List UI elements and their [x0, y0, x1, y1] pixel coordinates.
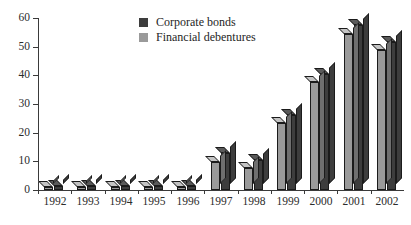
bar-2002-corporate-bonds-front-face — [387, 42, 396, 190]
legend: Corporate bonds Financial debentures — [139, 15, 256, 45]
bar-1994-financial-debentures-top-face — [105, 181, 120, 187]
x-axis-line — [38, 190, 404, 191]
bar-1996-financial-debentures-top-face — [171, 181, 186, 187]
bar-1996-financial-debentures-side-face — [186, 175, 192, 184]
y-tick-60 — [33, 18, 38, 19]
y-tick-50 — [33, 47, 38, 48]
legend-item-corporate-bonds: Corporate bonds — [139, 15, 256, 29]
bar-chart: 0102030405060 19921993199419951996199719… — [0, 0, 411, 225]
y-tick-20 — [33, 133, 38, 134]
bar-2002-corporate-bonds-top-face — [381, 36, 396, 42]
bar-1997-financial-debentures-front-face — [211, 162, 220, 190]
bar-1992-corporate-bonds-side-face — [63, 174, 69, 184]
bar-2000-financial-debentures-front-face — [310, 82, 319, 190]
bar-1992-financial-debentures-side-face — [53, 175, 59, 184]
y-tick-10 — [33, 161, 38, 162]
bar-1996-corporate-bonds-side-face — [196, 174, 202, 184]
bar-1999-corporate-bonds-top-face — [281, 109, 296, 115]
y-tick-label-30: 30 — [2, 98, 30, 110]
bar-1995-corporate-bonds-side-face — [163, 174, 169, 184]
bar-1995-financial-debentures-side-face — [153, 175, 159, 184]
bar-2002-financial-debentures-side-face — [386, 38, 392, 184]
bar-1993-financial-debentures-side-face — [86, 175, 92, 184]
bar-1999-financial-debentures-top-face — [271, 117, 286, 123]
bar-2002-corporate-bonds-side-face — [396, 30, 402, 184]
bar-1993-corporate-bonds-top-face — [81, 180, 96, 186]
bar-2000-corporate-bonds-side-face — [329, 62, 335, 184]
bar-2002-financial-debentures-front-face — [377, 50, 386, 190]
bar-2001-corporate-bonds-front-face — [354, 25, 363, 190]
bar-2001-corporate-bonds-side-face — [363, 13, 369, 184]
plot-area: 0102030405060 19921993199419951996199719… — [0, 0, 411, 225]
x-tick-1995 — [138, 190, 139, 194]
x-tick-1993 — [71, 190, 72, 194]
bar-1997-financial-debentures-top-face — [205, 156, 220, 162]
bar-2001-financial-debentures-top-face — [338, 28, 353, 34]
bar-2001-financial-debentures-front-face — [344, 34, 353, 190]
bar-2000-corporate-bonds-front-face — [320, 74, 329, 190]
y-tick-label-20: 20 — [2, 127, 30, 139]
bar-1996-corporate-bonds-top-face — [181, 180, 196, 186]
bar-1992-financial-debentures-top-face — [38, 181, 53, 187]
bar-1999-financial-debentures-side-face — [286, 111, 292, 184]
x-tick-1997 — [204, 190, 205, 194]
legend-label-financial-debentures: Financial debentures — [156, 31, 256, 43]
bar-1999-corporate-bonds-front-face — [287, 115, 296, 190]
legend-swatch-corporate-bonds — [139, 18, 148, 27]
y-tick-30 — [33, 104, 38, 105]
x-tick-2001 — [337, 190, 338, 194]
x-tick-1994 — [105, 190, 106, 194]
bar-1997-corporate-bonds-side-face — [230, 141, 236, 184]
bar-1994-corporate-bonds-side-face — [130, 174, 136, 184]
y-tick-label-60: 60 — [2, 12, 30, 24]
legend-swatch-financial-debentures — [139, 33, 148, 42]
bar-1995-financial-debentures-top-face — [138, 181, 153, 187]
bar-1992-corporate-bonds-top-face — [48, 180, 63, 186]
bar-2001-corporate-bonds-top-face — [348, 19, 363, 25]
x-tick-2002 — [371, 190, 372, 194]
bar-2002-financial-debentures-top-face — [371, 44, 386, 50]
bar-2000-financial-debentures-side-face — [319, 70, 325, 184]
y-tick-label-10: 10 — [2, 155, 30, 167]
bar-1998-corporate-bonds-side-face — [263, 148, 269, 184]
y-tick-label-0: 0 — [2, 184, 30, 196]
x-tick-label-2002: 2002 — [367, 196, 407, 208]
bar-1999-financial-debentures-front-face — [277, 123, 286, 190]
bar-1997-financial-debentures-side-face — [220, 150, 226, 184]
bar-1995-corporate-bonds-top-face — [148, 180, 163, 186]
bar-1993-financial-debentures-top-face — [71, 181, 86, 187]
bar-1997-corporate-bonds-top-face — [215, 147, 230, 153]
bar-2000-corporate-bonds-top-face — [314, 68, 329, 74]
bar-2000-financial-debentures-top-face — [304, 76, 319, 82]
bar-1994-corporate-bonds-top-face — [115, 180, 130, 186]
bar-1993-corporate-bonds-side-face — [96, 174, 102, 184]
legend-label-corporate-bonds: Corporate bonds — [156, 16, 236, 28]
x-tick-2000 — [304, 190, 305, 194]
y-tick-label-50: 50 — [2, 41, 30, 53]
x-tick-1992 — [38, 190, 39, 194]
bar-1999-corporate-bonds-side-face — [296, 103, 302, 184]
bar-1998-corporate-bonds-front-face — [254, 160, 263, 190]
bar-1998-financial-debentures-front-face — [244, 168, 253, 190]
bar-1998-financial-debentures-top-face — [238, 162, 253, 168]
bar-1998-corporate-bonds-top-face — [248, 154, 263, 160]
bar-1997-corporate-bonds-front-face — [221, 153, 230, 190]
bar-1994-financial-debentures-side-face — [120, 175, 126, 184]
x-tick-1996 — [171, 190, 172, 194]
bar-2001-financial-debentures-side-face — [353, 22, 359, 184]
x-tick-1999 — [271, 190, 272, 194]
legend-item-financial-debentures: Financial debentures — [139, 30, 256, 44]
y-tick-40 — [33, 75, 38, 76]
bar-1998-financial-debentures-side-face — [253, 156, 259, 184]
y-tick-label-40: 40 — [2, 69, 30, 81]
y-axis-line — [38, 18, 39, 191]
x-tick-1998 — [238, 190, 239, 194]
